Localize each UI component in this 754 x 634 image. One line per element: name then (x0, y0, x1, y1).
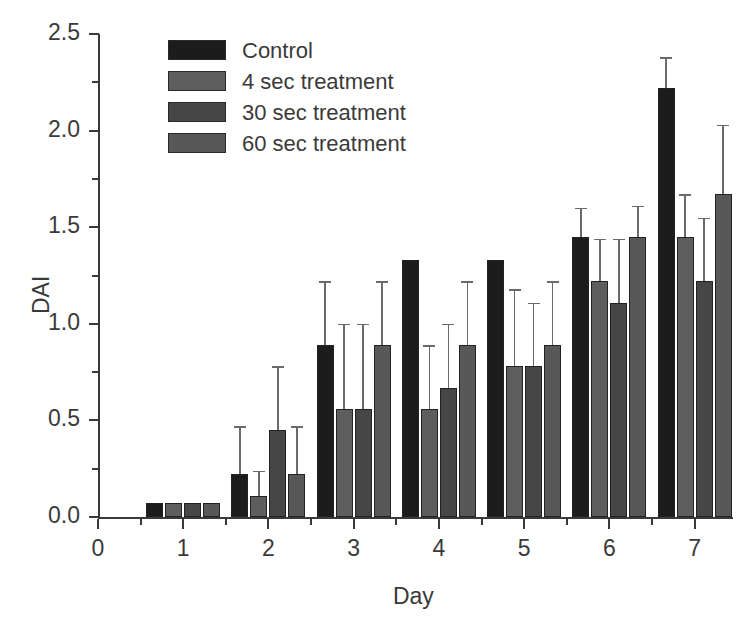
error-bar-stem (277, 366, 279, 430)
bar-30-sec-treatment-day-2 (269, 430, 286, 517)
bar-control-day-6 (572, 237, 589, 517)
bar-60-sec-treatment-day-1 (203, 503, 220, 517)
y-tick-major (89, 33, 99, 35)
legend-label: 4 sec treatment (242, 69, 394, 95)
y-axis-line (98, 34, 100, 519)
legend-swatch-icon (168, 102, 226, 122)
bar-control-day-3 (317, 345, 334, 517)
legend-label: 30 sec treatment (242, 100, 406, 126)
x-tick-minor (395, 519, 397, 525)
bar-4-sec-treatment-day-1 (165, 503, 182, 517)
error-bar-stem (467, 281, 469, 345)
y-axis-title: DAI (28, 276, 55, 314)
bar-30-sec-treatment-day-7 (696, 281, 713, 517)
legend-swatch-icon (168, 71, 226, 91)
error-bar-cap (575, 208, 587, 210)
x-tick-label: 2 (248, 535, 288, 562)
error-bar-cap (357, 324, 369, 326)
y-tick-label: 1.5 (10, 212, 80, 239)
x-tick-label: 4 (419, 535, 459, 562)
y-tick-major (89, 130, 99, 132)
error-bar-cap (632, 206, 644, 208)
x-tick-label: 0 (78, 535, 118, 562)
error-bar-stem (239, 426, 241, 474)
error-bar-cap (234, 426, 246, 428)
bar-4-sec-treatment-day-4 (421, 409, 438, 517)
x-axis-line (98, 517, 733, 519)
error-bar-stem (429, 345, 431, 409)
error-bar-stem (324, 281, 326, 345)
bar-30-sec-treatment-day-5 (525, 366, 542, 517)
error-bar-cap (423, 345, 435, 347)
y-tick-label: 2.5 (10, 19, 80, 46)
error-bar-stem (552, 281, 554, 345)
error-bar-cap (594, 239, 606, 241)
x-tick (608, 519, 610, 529)
y-tick-minor (92, 81, 99, 83)
error-bar-stem (258, 471, 260, 496)
x-tick-label: 5 (504, 535, 544, 562)
x-tick-label: 1 (163, 535, 203, 562)
error-bar-stem (684, 194, 686, 237)
error-bar-cap (272, 366, 284, 368)
bar-30-sec-treatment-day-4 (440, 388, 457, 517)
error-bar-stem (599, 239, 601, 282)
x-tick-minor (481, 519, 483, 525)
x-tick (694, 519, 696, 529)
error-bar-cap (698, 218, 710, 220)
error-bar-cap (291, 426, 303, 428)
y-tick-minor (92, 371, 99, 373)
error-bar-stem (703, 218, 705, 282)
bar-4-sec-treatment-day-7 (677, 237, 694, 517)
x-axis-title: Day (313, 583, 513, 610)
error-bar-stem (618, 239, 620, 303)
x-tick-label: 3 (334, 535, 374, 562)
legend-label: 60 sec treatment (242, 131, 406, 157)
error-bar-cap (660, 57, 672, 59)
y-tick-major (89, 226, 99, 228)
error-bar-stem (665, 57, 667, 88)
error-bar-stem (296, 426, 298, 474)
x-tick-minor (566, 519, 568, 525)
x-tick (182, 519, 184, 529)
legend-swatch-icon (168, 133, 226, 153)
bar-60-sec-treatment-day-5 (544, 345, 561, 517)
y-tick-major (89, 323, 99, 325)
y-tick-major (89, 419, 99, 421)
error-bar-cap (717, 125, 729, 127)
error-bar-cap (338, 324, 350, 326)
y-tick-minor (92, 178, 99, 180)
legend-swatch-icon (168, 40, 226, 60)
x-tick-minor (651, 519, 653, 525)
bar-60-sec-treatment-day-7 (715, 194, 732, 517)
error-bar-cap (442, 324, 454, 326)
y-tick-label: 2.0 (10, 116, 80, 143)
x-tick-minor (140, 519, 142, 525)
error-bar-stem (448, 324, 450, 388)
error-bar-cap (376, 281, 388, 283)
y-tick-major (89, 516, 99, 518)
error-bar-stem (514, 289, 516, 366)
y-tick-minor (92, 275, 99, 277)
y-tick-minor (92, 468, 99, 470)
error-bar-cap (547, 281, 559, 283)
bar-control-day-1 (146, 503, 163, 517)
error-bar-stem (722, 125, 724, 195)
x-tick-label: 7 (675, 535, 715, 562)
error-bar-cap (319, 281, 331, 283)
error-bar-stem (580, 208, 582, 237)
error-bar-stem (533, 303, 535, 367)
bar-60-sec-treatment-day-3 (374, 345, 391, 517)
bar-60-sec-treatment-day-6 (629, 237, 646, 517)
error-bar-cap (461, 281, 473, 283)
x-tick (267, 519, 269, 529)
bar-control-day-7 (658, 88, 675, 517)
error-bar-stem (362, 324, 364, 409)
bar-control-day-4 (402, 260, 419, 517)
bar-60-sec-treatment-day-2 (288, 474, 305, 517)
error-bar-stem (637, 206, 639, 237)
bar-4-sec-treatment-day-2 (250, 496, 267, 517)
bar-30-sec-treatment-day-6 (610, 303, 627, 517)
y-tick-label: 0.0 (10, 502, 80, 529)
x-tick-minor (225, 519, 227, 525)
